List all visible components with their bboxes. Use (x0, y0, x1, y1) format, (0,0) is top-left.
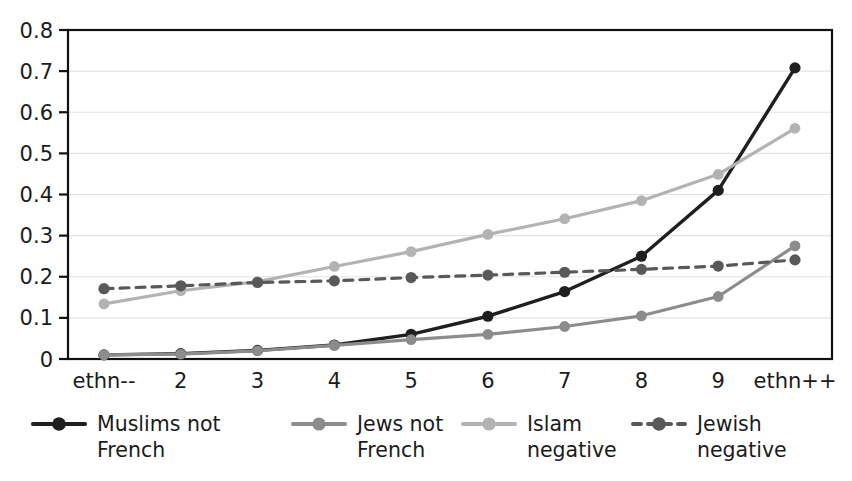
data-point (406, 334, 417, 345)
data-point (175, 349, 186, 360)
y-tick-label: 0.5 (20, 142, 53, 166)
data-point (713, 260, 724, 271)
legend-marker (482, 417, 495, 430)
data-point (636, 195, 647, 206)
data-point (559, 213, 570, 224)
legend-label-line2: French (97, 438, 165, 462)
data-point (636, 310, 647, 321)
y-tick-label: 0.4 (20, 183, 53, 207)
chart-background (0, 0, 852, 481)
y-tick-label: 0 (40, 348, 53, 372)
data-point (406, 272, 417, 283)
data-point (175, 280, 186, 291)
y-tick-label: 0.2 (20, 265, 53, 289)
x-tick-label: 8 (635, 369, 648, 393)
data-point (559, 286, 570, 297)
legend-marker (312, 417, 325, 430)
data-point (329, 261, 340, 272)
legend-label-line1: Jewish (695, 412, 762, 436)
data-point (713, 185, 724, 196)
data-point (789, 62, 800, 73)
data-point (482, 229, 493, 240)
data-point (329, 275, 340, 286)
y-axis-tick-labels: 00.10.20.30.40.50.60.70.8 (20, 19, 53, 372)
x-tick-label: 9 (712, 369, 725, 393)
x-tick-label: 3 (251, 369, 264, 393)
legend-label-line2: French (357, 438, 425, 462)
data-point (790, 123, 801, 134)
x-tick-label: 4 (328, 369, 341, 393)
line-chart: 00.10.20.30.40.50.60.70.8 ethn--23456789… (0, 0, 852, 481)
legend-label-line1: Muslims not (97, 412, 221, 436)
data-point (99, 298, 110, 309)
data-point (790, 241, 801, 252)
data-point (482, 311, 493, 322)
chart-container: 00.10.20.30.40.50.60.70.8 ethn--23456789… (0, 0, 852, 481)
data-point (482, 329, 493, 340)
legend-marker (652, 417, 666, 431)
x-tick-label: 2 (174, 369, 187, 393)
y-tick-label: 0.3 (20, 224, 53, 248)
x-tick-label: ethn-- (73, 369, 136, 393)
x-tick-label: ethn++ (754, 369, 837, 393)
y-tick-label: 0.7 (20, 60, 53, 84)
data-point (482, 270, 493, 281)
x-tick-label: 7 (558, 369, 571, 393)
data-point (252, 345, 263, 356)
legend-label-line2: negative (697, 438, 787, 462)
data-point (406, 246, 417, 257)
data-point (636, 264, 647, 275)
legend-label-line1: Islam (527, 412, 582, 436)
legend-label-line1: Jews not (355, 412, 443, 436)
data-point (252, 277, 263, 288)
data-point (636, 251, 647, 262)
x-tick-label: 6 (481, 369, 494, 393)
y-tick-label: 0.6 (20, 101, 53, 125)
data-point (98, 283, 109, 294)
data-point (559, 321, 570, 332)
data-point (99, 349, 110, 360)
data-point (713, 291, 724, 302)
data-point (713, 169, 724, 180)
data-point (789, 254, 800, 265)
x-tick-label: 5 (404, 369, 417, 393)
y-tick-label: 0.1 (20, 306, 53, 330)
data-point (559, 267, 570, 278)
legend-label-line2: negative (527, 438, 617, 462)
y-tick-label: 0.8 (20, 19, 53, 43)
legend-marker (52, 417, 66, 431)
data-point (329, 340, 340, 351)
